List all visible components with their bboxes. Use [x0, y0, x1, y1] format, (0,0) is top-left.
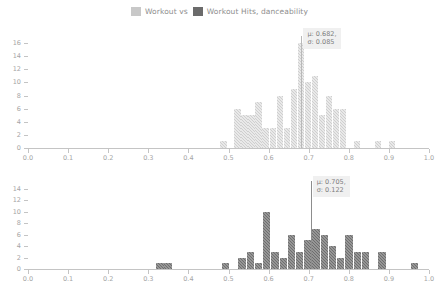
histogram-bar — [411, 263, 418, 269]
histogram-bar — [354, 141, 360, 148]
histogram-panel-workout-vs: 02468101214160.00.10.20.30.40.50.60.70.8… — [0, 20, 439, 172]
x-axis-tick-label: 0.0 — [23, 275, 33, 283]
x-axis-tick — [148, 270, 149, 274]
x-axis-tick-label: 0.0 — [23, 154, 33, 162]
x-axis-tick-label: 1.0 — [424, 154, 434, 162]
y-axis-tick-label: 12 — [4, 65, 21, 73]
x-axis-tick-label: 0.2 — [103, 154, 113, 162]
legend-label-workout-vs: Workout vs — [145, 7, 188, 16]
y-axis-tick-label: 16 — [4, 39, 21, 47]
x-axis-tick-label: 0.2 — [103, 275, 113, 283]
y-axis-tick — [24, 96, 28, 97]
x-axis-tick-label: 0.6 — [263, 275, 273, 283]
x-axis-tick — [389, 149, 390, 153]
x-axis-tick — [28, 149, 29, 153]
stddev-stat-label: σ: 0.122 — [317, 186, 346, 194]
y-axis-tick-label: 2 — [4, 254, 21, 262]
x-axis-tick — [429, 149, 430, 153]
x-axis-tick-label: 0.8 — [344, 275, 354, 283]
x-axis-tick-label: 0.6 — [263, 154, 273, 162]
x-axis-tick-label: 0.7 — [304, 154, 314, 162]
x-axis-tick — [148, 149, 149, 153]
x-axis-tick — [229, 149, 230, 153]
histogram-bar — [312, 76, 318, 148]
x-axis-tick — [28, 270, 29, 274]
histogram-bar — [263, 212, 270, 269]
legend-swatch-icon-light — [131, 7, 141, 16]
x-axis-tick-label: 0.1 — [63, 154, 73, 162]
histogram-bar — [326, 96, 332, 149]
histogram-bar — [312, 229, 319, 269]
chart-legend: Workout vs Workout Hits, danceability — [0, 4, 439, 18]
y-axis-tick — [24, 109, 28, 110]
legend-entry-workout-hits: Workout Hits, danceability — [193, 7, 308, 16]
x-axis-tick-label: 0.8 — [344, 154, 354, 162]
histogram-bar — [319, 115, 325, 148]
y-axis-tick — [24, 200, 28, 201]
x-axis-tick-label: 0.1 — [63, 275, 73, 283]
plot-area-top: 02468101214160.00.10.20.30.40.50.60.70.8… — [28, 20, 429, 172]
y-axis-tick-label: 10 — [4, 78, 21, 86]
histogram-bar — [241, 115, 247, 148]
x-axis-tick — [269, 270, 270, 274]
x-axis-tick-label: 0.4 — [183, 154, 193, 162]
y-axis-tick-label: 4 — [4, 242, 21, 250]
histogram-bar — [288, 235, 295, 269]
y-axis-tick-label: 14 — [4, 52, 21, 60]
histogram-bar — [389, 141, 395, 148]
y-axis-tick — [24, 82, 28, 83]
histogram-bar — [247, 252, 254, 269]
histogram-bar — [270, 128, 276, 148]
histogram-bar — [284, 128, 290, 148]
histogram-bar — [333, 109, 339, 148]
y-axis-tick — [24, 122, 28, 123]
histogram-bar — [271, 252, 278, 269]
y-axis-tick — [24, 212, 28, 213]
legend-label-workout-hits: Workout Hits, danceability — [207, 7, 308, 16]
stats-annotation: μ: 0.705,σ: 0.122 — [313, 176, 350, 197]
y-axis-tick — [24, 43, 28, 44]
histogram-bar — [329, 246, 336, 269]
y-axis-tick-label: 0 — [4, 144, 21, 152]
histogram-bar — [277, 96, 283, 149]
x-axis-tick — [309, 270, 310, 274]
y-axis-tick-label: 2 — [4, 131, 21, 139]
plot-area-bottom: 024681012140.00.10.20.30.40.50.60.70.80.… — [28, 172, 429, 296]
x-axis-tick — [429, 270, 430, 274]
y-axis-tick-label: 10 — [4, 208, 21, 216]
y-axis-tick-label: 6 — [4, 105, 21, 113]
x-axis-tick — [349, 149, 350, 153]
histogram-bar — [222, 263, 229, 269]
y-axis-tick-label: 8 — [4, 92, 21, 100]
histogram-bar — [354, 252, 361, 269]
histogram-bar — [220, 141, 226, 148]
histogram-panel-workout-hits: 024681012140.00.10.20.30.40.50.60.70.80.… — [0, 172, 439, 296]
histogram-bar — [291, 89, 297, 148]
y-axis-tick — [24, 69, 28, 70]
y-axis-tick — [24, 223, 28, 224]
mean-stat-label: μ: 0.705, — [317, 178, 346, 186]
histogram-bar — [296, 252, 303, 269]
x-axis-tick-label: 0.9 — [384, 154, 394, 162]
histogram-bar — [362, 252, 369, 269]
x-axis-tick — [108, 149, 109, 153]
y-axis-tick-label: 8 — [4, 219, 21, 227]
y-axis-tick-label: 0 — [4, 265, 21, 273]
histogram-bar — [255, 102, 261, 148]
stats-annotation: μ: 0.682,σ: 0.085 — [303, 28, 340, 49]
x-axis-tick — [188, 149, 189, 153]
x-axis-tick — [229, 270, 230, 274]
histogram-bar — [305, 82, 311, 148]
mean-marker-line — [301, 36, 302, 148]
histogram-bar — [337, 258, 344, 269]
y-axis-tick — [24, 258, 28, 259]
histogram-bar — [375, 141, 381, 148]
mean-marker-line — [311, 181, 312, 269]
y-axis-tick — [24, 189, 28, 190]
histogram-bar — [234, 109, 240, 148]
x-axis-tick — [389, 270, 390, 274]
histogram-bar — [255, 263, 262, 269]
x-axis-tick-label: 0.3 — [143, 275, 153, 283]
x-axis-tick — [269, 149, 270, 153]
y-axis-tick-label: 6 — [4, 231, 21, 239]
